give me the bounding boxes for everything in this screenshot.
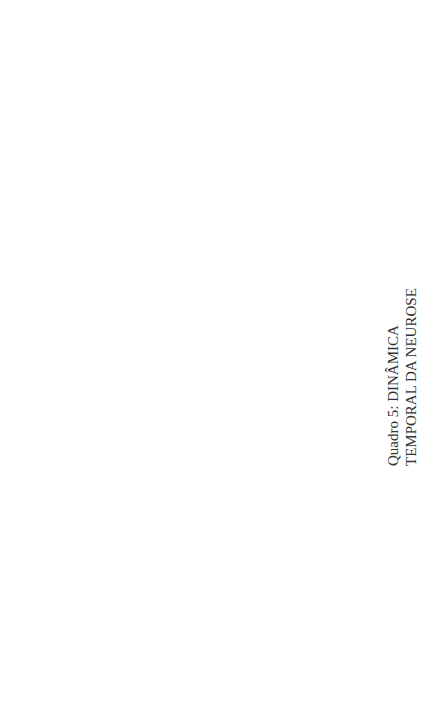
title: Quadro 5: DINÂMICA TEMPORAL DA NEUROSE [385, 288, 419, 466]
neurosis-dynamics-diagram: Quadro 5: DINÂMICA TEMPORAL DA NEUROSE [0, 0, 436, 706]
title-line-2: TEMPORAL DA NEUROSE [403, 288, 419, 466]
diagram-canvas: Quadro 5: DINÂMICA TEMPORAL DA NEUROSE [0, 0, 436, 706]
title-line-1: Quadro 5: DINÂMICA [385, 325, 401, 466]
